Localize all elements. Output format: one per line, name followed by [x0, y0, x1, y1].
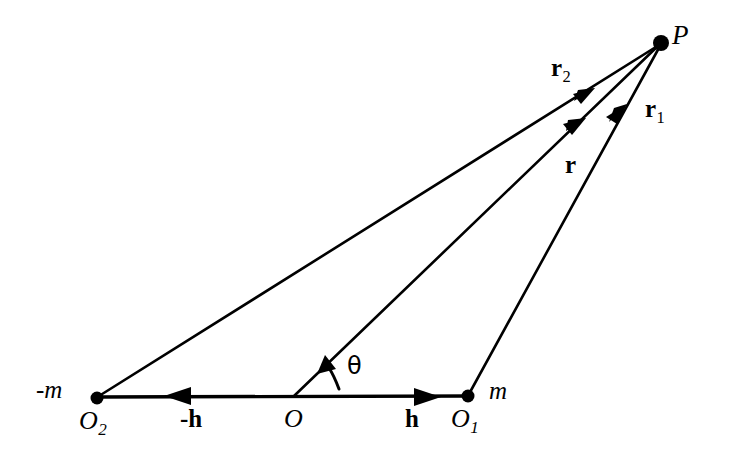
vector-r-line	[294, 45, 659, 396]
label-vector-r2-subscript: 2	[563, 67, 571, 86]
label-point-O: O	[284, 406, 303, 432]
label-point-O2-subscript: 2	[98, 420, 107, 439]
vector-r2-line	[99, 45, 659, 396]
dipole-axis-line	[97, 396, 468, 397]
label-angle-theta: θ	[347, 354, 362, 378]
label-pole-negative-m: -m	[36, 377, 62, 402]
label-point-O1-subscript: 1	[470, 418, 479, 437]
diagram-canvas	[0, 0, 733, 460]
point-marker-P	[653, 35, 669, 51]
vector-negative-h-arrowhead	[164, 387, 191, 405]
label-point-P: P	[672, 22, 689, 49]
point-marker-O1	[462, 390, 475, 403]
point-marker-O2	[91, 392, 104, 405]
label-vector-r2: r2	[551, 55, 571, 86]
label-vector-r1: r1	[645, 96, 665, 127]
label-vector-r1-subscript: 1	[657, 108, 665, 127]
label-point-O1: O1	[451, 406, 479, 436]
label-vector-h: h	[405, 406, 419, 431]
label-point-O2: O2	[79, 408, 107, 438]
vector-r1-line	[469, 46, 660, 394]
label-vector-r: r	[565, 152, 576, 177]
label-vector-negative-h: -h	[180, 406, 202, 431]
dipole-diagram: P r2 r1 r θ -m O2 -h O h O1 m	[0, 0, 733, 460]
label-pole-positive-m: m	[489, 378, 507, 403]
angle-theta-arc	[329, 368, 339, 389]
vector-h-arrowhead	[414, 388, 441, 406]
